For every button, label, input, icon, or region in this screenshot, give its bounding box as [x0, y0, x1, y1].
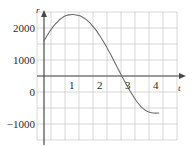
y-tick-label-minus-1000: −1000	[0, 119, 35, 130]
x-tick-label-4: 4	[153, 80, 159, 91]
x-axis-label: t	[178, 84, 181, 93]
data-curve	[44, 15, 159, 114]
y-tick-label-1000: 1000	[2, 55, 35, 66]
x-tick-label-2: 2	[97, 80, 103, 91]
y-tick-label-2000: 2000	[2, 23, 35, 34]
chart-figure: 2000 1000 0 −1000 1 2 3 4 r t	[0, 0, 194, 147]
x-tick-label-3: 3	[125, 80, 131, 91]
y-tick-label-0: 0	[2, 87, 35, 98]
x-axis	[37, 73, 186, 79]
x-tick-label-1: 1	[69, 80, 75, 91]
y-axis-label: r	[36, 6, 40, 15]
y-axis	[41, 10, 47, 145]
